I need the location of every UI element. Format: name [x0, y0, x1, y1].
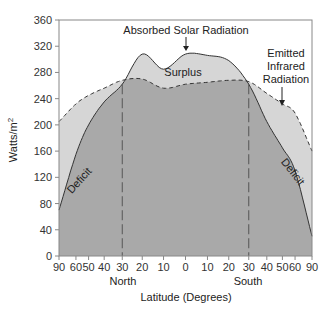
- x-tick-label: 20: [136, 261, 148, 273]
- x-tick-label: 50: [276, 261, 288, 273]
- x-tick-label: 10: [157, 261, 169, 273]
- y-tick-label: 80: [40, 198, 52, 210]
- emitted-label-line2: Infrared: [267, 60, 305, 72]
- absorbed-solar-label: Absorbed Solar Radiation: [123, 24, 248, 36]
- x-tick-label: 40: [98, 261, 110, 273]
- emitted-label-line3: Radiation: [263, 73, 309, 85]
- x-axis-title: Latitude (Degrees): [140, 291, 231, 303]
- y-tick-label: 120: [34, 171, 52, 183]
- x-tick-label: 30: [116, 261, 128, 273]
- y-tick-label: 40: [40, 224, 52, 236]
- x-tick-label: 50: [82, 261, 94, 273]
- north-label: North: [110, 275, 137, 287]
- x-tick-label: 60: [70, 261, 82, 273]
- energy-balance-chart: 04080120160200240280320360 9060504030201…: [0, 0, 333, 321]
- y-tick-label: 200: [34, 119, 52, 131]
- x-tick-label: 40: [261, 261, 273, 273]
- y-tick-label: 240: [34, 93, 52, 105]
- x-tick-label: 0: [182, 261, 188, 273]
- south-label: South: [234, 275, 263, 287]
- x-tick-label: 90: [306, 261, 318, 273]
- x-tick-label: 10: [201, 261, 213, 273]
- y-tick-label: 360: [34, 14, 52, 26]
- x-tick-label: 30: [243, 261, 255, 273]
- surplus-label: Surplus: [164, 66, 202, 78]
- x-tick-label: 90: [53, 261, 65, 273]
- x-tick-label: 60: [289, 261, 301, 273]
- emitted-label-line1: Emitted: [267, 47, 304, 59]
- y-tick-label: 160: [34, 145, 52, 157]
- y-tick-label: 320: [34, 40, 52, 52]
- y-tick-label: 0: [46, 250, 52, 262]
- x-tick-label: 20: [223, 261, 235, 273]
- absorbed-arrowhead-icon: [183, 46, 189, 51]
- x-axis-ticks: 90605040302010010203040506090: [53, 256, 318, 273]
- y-tick-label: 280: [34, 66, 52, 78]
- y-axis-title: Watts/m2: [6, 117, 19, 162]
- y-axis-ticks: 04080120160200240280320360: [34, 14, 59, 262]
